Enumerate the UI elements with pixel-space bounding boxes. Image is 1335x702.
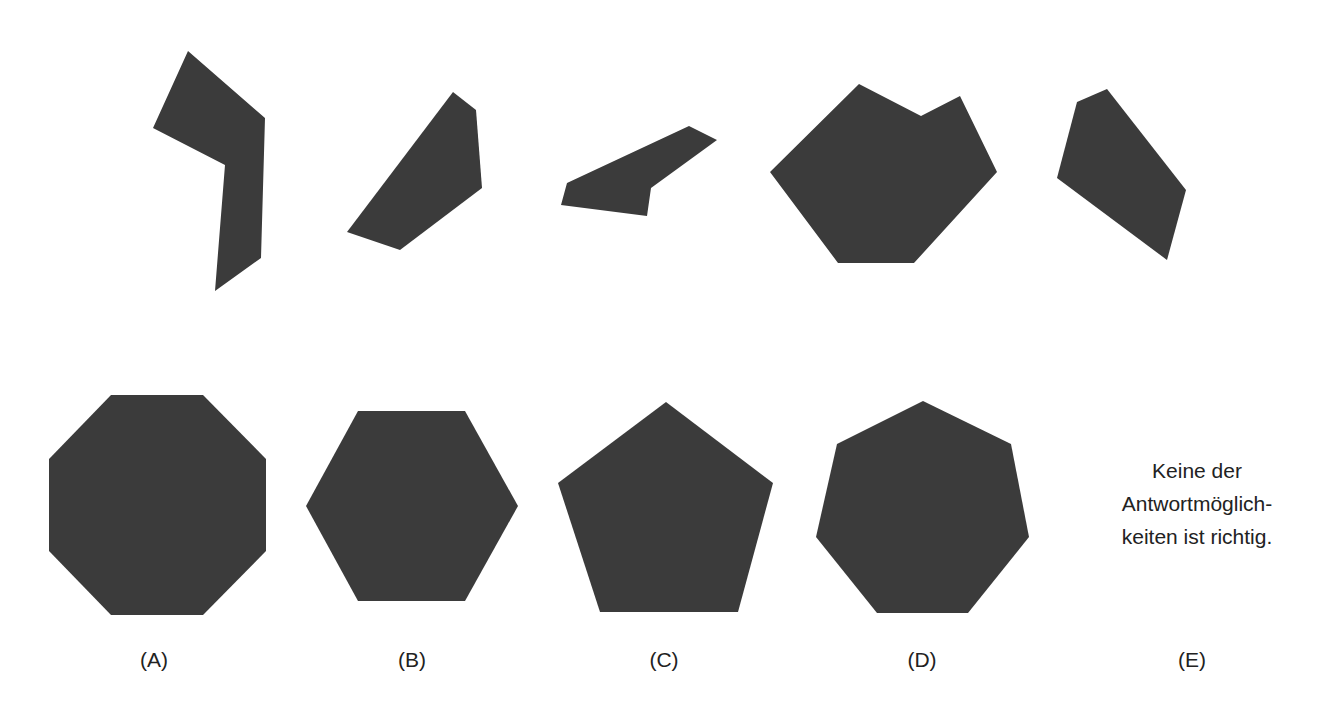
puzzle-canvas (0, 0, 1335, 702)
option-b-label[interactable]: (B) (398, 648, 426, 672)
puzzle-piece-5 (1057, 89, 1186, 260)
option-a-octagon[interactable] (49, 395, 266, 615)
puzzle-piece-4 (770, 84, 997, 263)
puzzle-piece-1 (153, 51, 265, 291)
option-c-pentagon[interactable] (558, 402, 773, 612)
option-e-label[interactable]: (E) (1178, 648, 1206, 672)
option-d-heptagon[interactable] (816, 401, 1029, 613)
puzzle-piece-3 (561, 126, 717, 216)
puzzle-piece-2 (347, 92, 482, 250)
option-b-hexagon[interactable] (306, 411, 518, 601)
option-e-line-1: Keine der (1097, 454, 1297, 487)
answer-options (49, 395, 1029, 615)
puzzle-pieces (153, 51, 1186, 291)
option-c-label[interactable]: (C) (649, 648, 678, 672)
option-e-line-2: Antwortmöglich- (1097, 487, 1297, 520)
option-a-label[interactable]: (A) (140, 648, 168, 672)
option-e-line-3: keiten ist richtig. (1097, 520, 1297, 553)
option-e-text[interactable]: Keine der Antwortmöglich- keiten ist ric… (1097, 454, 1297, 553)
option-d-label[interactable]: (D) (907, 648, 936, 672)
